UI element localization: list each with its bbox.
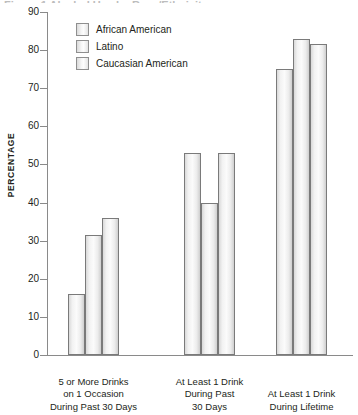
y-axis-tick xyxy=(40,241,47,242)
y-axis-tick-label: 20 xyxy=(13,274,39,284)
y-axis-tick xyxy=(40,203,47,204)
y-axis-tick xyxy=(40,279,47,280)
x-axis-category-label: 5 or More Drinkson 1 OccasionDuring Past… xyxy=(31,376,157,414)
y-axis-tick-label: 40 xyxy=(13,198,39,208)
legend-swatch-icon xyxy=(76,40,89,53)
bar xyxy=(201,203,218,355)
y-axis-tick xyxy=(40,317,47,318)
legend-item: Latino xyxy=(76,38,188,55)
legend-label: African American xyxy=(96,25,172,35)
bar xyxy=(184,153,201,355)
legend-swatch-icon xyxy=(76,57,89,70)
y-axis-tick-label: 50 xyxy=(13,159,39,169)
y-axis-tick-label: 80 xyxy=(13,45,39,55)
bar xyxy=(310,44,327,355)
x-axis-category-label: At Least 1 DrinkDuring Lifetime xyxy=(239,388,358,413)
y-axis-tick xyxy=(40,126,47,127)
bar-chart: PERCENTAGE 0102030405060708090 5 or More… xyxy=(0,0,358,415)
y-axis-tick-label: 10 xyxy=(13,312,39,322)
bar-group xyxy=(276,11,327,355)
y-axis-line xyxy=(47,12,48,356)
legend-label: Latino xyxy=(96,42,123,52)
chart-legend: African AmericanLatinoCaucasian American xyxy=(76,21,188,72)
y-axis-tick-label: 70 xyxy=(13,83,39,93)
legend-swatch-icon xyxy=(76,23,89,36)
bar xyxy=(218,153,235,355)
bar xyxy=(276,69,293,355)
y-axis-tick-label: 0 xyxy=(13,350,39,360)
y-axis-tick-label: 30 xyxy=(13,236,39,246)
y-axis-tick xyxy=(40,12,47,13)
y-axis-tick-label: 90 xyxy=(13,7,39,17)
x-axis-line xyxy=(47,355,353,356)
legend-item: Caucasian American xyxy=(76,55,188,72)
legend-label: Caucasian American xyxy=(96,59,188,69)
bar xyxy=(293,39,310,355)
y-axis-tick xyxy=(40,164,47,165)
bar xyxy=(102,218,119,355)
y-axis-tick xyxy=(40,88,47,89)
legend-item: African American xyxy=(76,21,188,38)
bar xyxy=(68,294,85,355)
bar-group xyxy=(184,11,235,355)
y-axis-tick xyxy=(40,355,47,356)
y-axis-tick xyxy=(40,50,47,51)
bar xyxy=(85,235,102,355)
y-axis-tick-label: 60 xyxy=(13,121,39,131)
